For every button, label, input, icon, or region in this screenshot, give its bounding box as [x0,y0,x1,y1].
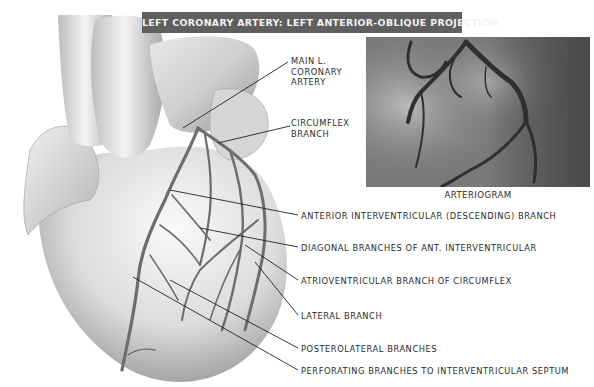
label-circumflex-branch: CIRCUMFLEX BRANCH [291,118,349,139]
label-diagonal-branches: DIAGONAL BRANCHES OF ANT. INTERVENTRICUL… [301,243,537,254]
label-posterolateral-branches: POSTEROLATERAL BRANCHES [301,344,437,355]
label-line: CIRCUMFLEX [291,118,349,129]
label-atrioventricular-branch: ATRIOVENTRICULAR BRANCH OF CIRCUMFLEX [301,276,512,287]
label-main-left-coronary-artery: MAIN L. CORONARY ARTERY [291,56,342,88]
label-line: ARTERY [291,77,342,88]
diagram-title-banner: LEFT CORONARY ARTERY: LEFT ANTERIOR-OBLI… [142,12,462,33]
label-anterior-interventricular: ANTERIOR INTERVENTRICULAR (DESCENDING) B… [301,211,556,222]
label-perforating-branches: PERFORATING BRANCHES TO INTERVENTRICULAR… [301,366,569,377]
label-line: CORONARY [291,67,342,78]
label-line: MAIN L. [291,56,342,67]
label-lateral-branch: LATERAL BRANCH [301,311,382,322]
arteriogram-caption: ARTERIOGRAM [366,190,590,200]
arteriogram-image [366,37,590,187]
label-line: BRANCH [291,129,349,140]
